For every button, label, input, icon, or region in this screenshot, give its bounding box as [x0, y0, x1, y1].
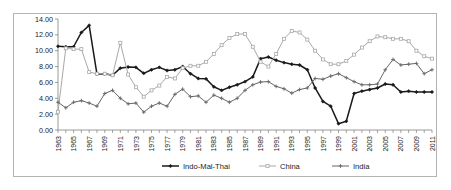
chart-legend: Indo-Mal-ThaiChinaIndia [162, 162, 370, 171]
data-point-marker [430, 68, 434, 72]
data-point-marker [88, 71, 91, 74]
chart-svg: 0.002.004.006.008.0010.0012.0014.00 1963… [14, 14, 438, 178]
data-point-marker [376, 35, 379, 38]
data-point-marker [189, 64, 192, 67]
data-point-marker [158, 84, 161, 87]
data-point-marker [181, 67, 184, 70]
data-point-marker [431, 57, 434, 60]
legend-item-label: China [280, 162, 301, 171]
data-point-marker [259, 60, 262, 63]
x-axis-tick-label: 1971 [117, 136, 124, 152]
data-point-marker [339, 164, 343, 168]
data-point-marker [244, 33, 247, 36]
data-point-marker [205, 60, 208, 63]
data-point-marker [127, 73, 130, 76]
data-point-marker [360, 83, 364, 87]
series-china [57, 29, 434, 113]
y-axis-tick-label: 12.00 [35, 30, 53, 39]
x-axis-tick-label: 1963 [55, 136, 62, 152]
x-axis-tick-label: 1967 [86, 136, 93, 152]
data-point-marker [407, 89, 410, 92]
data-point-marker [344, 76, 348, 80]
x-axis-tick-label: 1993 [288, 136, 295, 152]
chart-plot-frame: 0.002.004.006.008.0010.0012.0014.00 1963… [13, 13, 437, 177]
legend-item-india[interactable]: India [332, 162, 370, 171]
x-axis-tick-label: 1969 [101, 136, 108, 152]
data-point-marker [337, 63, 340, 66]
x-axis-tick-label: 1983 [210, 136, 217, 152]
data-point-marker [321, 58, 324, 61]
y-axis-group: 0.002.004.006.008.0010.0012.0014.00 [35, 15, 58, 135]
data-point-marker [407, 40, 410, 43]
data-point-marker [157, 101, 161, 105]
data-point-marker [415, 49, 418, 52]
x-axis-tick-label: 1999 [335, 136, 342, 152]
data-point-marker [111, 74, 114, 77]
data-point-marker [251, 45, 254, 48]
legend-item-indo-mal-thai[interactable]: Indo-Mal-Thai [162, 162, 230, 171]
data-point-marker [212, 52, 215, 55]
data-point-marker [220, 44, 223, 47]
data-point-marker [345, 60, 348, 63]
legend-item-label: Indo-Mal-Thai [183, 162, 230, 171]
data-point-marker [360, 46, 363, 49]
data-point-marker [368, 40, 371, 43]
data-point-marker [321, 77, 325, 81]
legend-item-china[interactable]: China [259, 162, 301, 171]
data-point-marker [352, 80, 356, 84]
data-point-marker [79, 99, 83, 103]
data-point-marker [236, 33, 239, 36]
data-point-marker [376, 82, 380, 86]
data-point-marker [392, 37, 395, 40]
data-point-marker [119, 41, 122, 44]
data-point-marker [95, 72, 98, 75]
x-axis-group: 1963196519671969197119731975197719791981… [55, 130, 436, 152]
data-point-marker [290, 29, 293, 32]
data-point-marker [290, 62, 293, 65]
x-axis-tick-label: 2007 [397, 136, 404, 152]
data-point-marker [228, 37, 231, 40]
data-point-marker [56, 45, 59, 48]
data-point-marker [329, 74, 333, 78]
line-chart-figure: 0.002.004.006.008.0010.0012.0014.00 1963… [0, 0, 451, 190]
data-point-marker [228, 100, 232, 104]
y-axis-tick-label: 14.00 [35, 15, 53, 24]
data-point-marker [134, 86, 137, 89]
x-axis-tick-label: 2011 [429, 136, 436, 151]
data-point-marker [282, 61, 285, 64]
y-axis-tick-label: 8.00 [39, 62, 53, 71]
y-axis-tick-label: 6.00 [39, 78, 53, 87]
x-axis-tick-label: 1979 [179, 136, 186, 152]
x-axis-tick-label: 1995 [304, 136, 311, 152]
data-point-marker [298, 31, 301, 34]
series-layer [56, 24, 434, 126]
data-point-marker [266, 165, 269, 168]
data-point-marker [290, 91, 294, 95]
x-axis-tick-label: 1987 [242, 136, 249, 152]
x-axis-tick-label: 1985 [226, 136, 233, 152]
data-point-marker [220, 96, 224, 100]
data-point-marker [197, 64, 200, 67]
x-axis-tick-label: 1977 [164, 136, 171, 152]
data-point-marker [259, 80, 263, 84]
x-axis-tick-label: 1997 [320, 136, 327, 152]
y-axis-tick-label: 4.00 [39, 94, 53, 103]
data-point-marker [80, 48, 83, 51]
x-axis-tick-label: 2005 [382, 136, 389, 152]
series-india [56, 58, 434, 115]
data-point-marker [352, 92, 355, 95]
data-point-marker [407, 62, 411, 66]
data-point-marker [306, 38, 309, 41]
data-point-marker [423, 55, 426, 58]
data-point-marker [360, 89, 363, 92]
data-point-marker [345, 120, 348, 123]
x-axis-tick-label: 2001 [351, 136, 358, 152]
data-point-marker [423, 90, 426, 93]
data-point-marker [150, 89, 153, 92]
data-point-marker [267, 65, 270, 68]
data-point-marker [169, 164, 172, 167]
data-point-marker [57, 110, 60, 113]
data-point-marker [384, 36, 387, 39]
data-point-marker [173, 77, 176, 80]
data-point-marker [103, 72, 106, 75]
